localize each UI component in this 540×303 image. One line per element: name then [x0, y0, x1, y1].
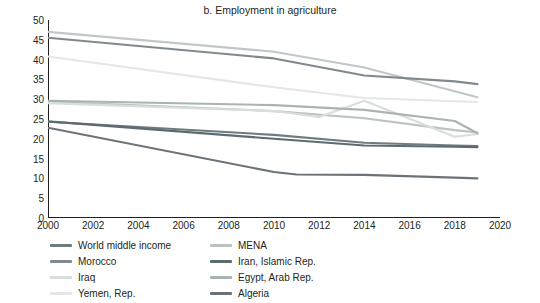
legend-label: Iran, Islamic Rep. — [238, 256, 316, 267]
y-tick-label: 15 — [33, 153, 44, 164]
chart-title: b. Employment in agriculture — [0, 4, 540, 16]
x-tick-label: 2012 — [308, 220, 330, 231]
y-tick-label: 5 — [38, 193, 44, 204]
y-axis-ticks: 05101520253035404550 — [0, 20, 44, 218]
legend-label: MENA — [238, 240, 267, 251]
y-tick-label: 10 — [33, 173, 44, 184]
x-tick-label: 2006 — [172, 220, 194, 231]
x-tick-label: 2016 — [398, 220, 420, 231]
legend-item[interactable]: Egypt, Arab Rep. — [210, 272, 370, 283]
legend-item[interactable]: MENA — [210, 240, 370, 251]
chart-legend: World middle incomeMENAMoroccoIran, Isla… — [50, 240, 520, 303]
x-tick-label: 2008 — [218, 220, 240, 231]
series-line — [48, 101, 477, 137]
x-tick-label: 2004 — [127, 220, 149, 231]
y-tick-label: 45 — [33, 34, 44, 45]
legend-swatch-icon — [210, 244, 232, 247]
plot-svg — [48, 20, 500, 218]
legend-label: Iraq — [78, 272, 95, 283]
y-tick-label: 30 — [33, 94, 44, 105]
legend-item[interactable]: World middle income — [50, 240, 210, 251]
legend-swatch-icon — [210, 276, 232, 279]
plot-area — [48, 20, 500, 218]
legend-item[interactable]: Morocco — [50, 256, 210, 267]
series-line — [48, 38, 477, 84]
y-tick-label: 40 — [33, 54, 44, 65]
legend-label: Yemen, Rep. — [78, 288, 135, 299]
x-tick-label: 2000 — [37, 220, 59, 231]
y-tick-label: 25 — [33, 114, 44, 125]
x-tick-label: 2020 — [489, 220, 511, 231]
legend-swatch-icon — [50, 260, 72, 263]
x-tick-label: 2002 — [82, 220, 104, 231]
legend-swatch-icon — [210, 260, 232, 263]
legend-item[interactable]: Yemen, Rep. — [50, 288, 210, 299]
legend-label: World middle income — [78, 240, 171, 251]
y-tick-label: 20 — [33, 133, 44, 144]
x-axis-ticks: 2000200220042006200820102012201420162018… — [48, 220, 500, 234]
legend-swatch-icon — [50, 276, 72, 279]
legend-label: Morocco — [78, 256, 116, 267]
legend-swatch-icon — [50, 244, 72, 247]
legend-swatch-icon — [50, 292, 72, 295]
y-tick-label: 35 — [33, 74, 44, 85]
y-tick-label: 50 — [33, 15, 44, 26]
x-tick-label: 2010 — [263, 220, 285, 231]
x-tick-label: 2018 — [444, 220, 466, 231]
legend-label: Algeria — [238, 288, 269, 299]
legend-label: Egypt, Arab Rep. — [238, 272, 314, 283]
x-tick-label: 2014 — [353, 220, 375, 231]
legend-item[interactable]: Iraq — [50, 272, 210, 283]
series-line — [48, 128, 477, 179]
legend-item[interactable]: Algeria — [210, 288, 370, 299]
legend-swatch-icon — [210, 292, 232, 295]
legend-item[interactable]: Iran, Islamic Rep. — [210, 256, 370, 267]
